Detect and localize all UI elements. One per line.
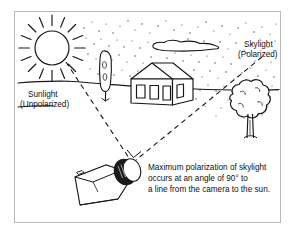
caption-line1: Maximum polarization of skylight (148, 163, 267, 172)
polarization-diagram-figure: Sunlight (Unpolarized) Skylight (Polariz… (0, 0, 297, 238)
label-skylight: Skylight (Polarized) (238, 40, 278, 59)
sunlight-label-line1: Sunlight (28, 90, 58, 99)
house-door (163, 86, 171, 100)
skylight-label-line2: (Polarized) (238, 50, 278, 59)
sunlight-label-line2: (Unpolarized) (20, 100, 69, 109)
caption-line2: occurs at an angle of 90° to (148, 174, 248, 183)
diagram-canvas: Sunlight (Unpolarized) Skylight (Polariz… (0, 0, 297, 238)
house-window-2 (150, 86, 159, 100)
caption-line3: a line from the camera to the sun. (148, 185, 270, 194)
cypress-crown (100, 51, 112, 92)
skylight-label-line1: Skylight (244, 40, 273, 49)
house-window-1 (137, 85, 146, 98)
house-window-side (177, 84, 184, 98)
